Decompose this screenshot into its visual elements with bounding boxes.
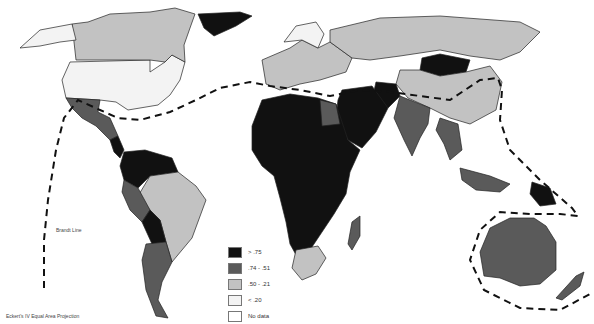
legend-label: .50 - .21 bbox=[248, 281, 270, 287]
projection-label: Eckert's IV Equal Area Projection bbox=[6, 313, 79, 319]
legend-item: .50 - .21 bbox=[228, 276, 270, 292]
map-legend: > .75 .74 - .51 .50 - .21 < .20 No data bbox=[228, 244, 270, 324]
brandt-line-label: Brandt Line bbox=[56, 227, 82, 233]
region-canada bbox=[72, 8, 195, 62]
legend-swatch-medium bbox=[228, 279, 242, 290]
region-alaska bbox=[20, 24, 76, 48]
region-argentina bbox=[142, 242, 172, 318]
legend-swatch-low bbox=[228, 295, 242, 306]
legend-label: < .20 bbox=[248, 297, 262, 303]
region-greenland bbox=[198, 12, 252, 36]
region-egypt bbox=[320, 100, 340, 126]
region-papua-new-guinea bbox=[530, 182, 556, 206]
legend-label: .74 - .51 bbox=[248, 265, 270, 271]
region-new-zealand bbox=[556, 272, 584, 300]
legend-item: No data bbox=[228, 308, 270, 324]
legend-item: > .75 bbox=[228, 244, 270, 260]
legend-swatch-high bbox=[228, 263, 242, 274]
region-south-africa bbox=[292, 246, 326, 280]
region-madagascar bbox=[348, 216, 360, 250]
legend-item: < .20 bbox=[228, 292, 270, 308]
world-map bbox=[0, 0, 594, 324]
region-southeast-asia bbox=[436, 118, 462, 160]
legend-label: > .75 bbox=[248, 249, 262, 255]
region-australia bbox=[480, 218, 556, 286]
legend-swatch-very-high bbox=[228, 247, 242, 258]
legend-swatch-no-data bbox=[228, 311, 242, 322]
region-mexico bbox=[66, 98, 118, 140]
legend-item: .74 - .51 bbox=[228, 260, 270, 276]
region-indonesia bbox=[460, 168, 510, 192]
region-russia bbox=[330, 16, 540, 60]
region-central-america bbox=[110, 136, 124, 158]
legend-label: No data bbox=[248, 313, 269, 319]
